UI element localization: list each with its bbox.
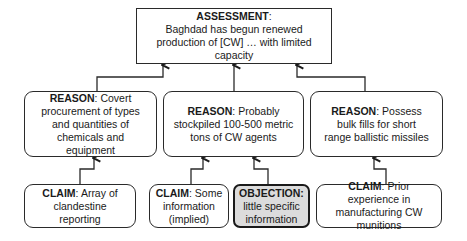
- claim-node-prior-experience: CLAIM: Prior experience in manufacturing…: [316, 184, 442, 228]
- objection-label: OBJECTION:: [239, 187, 304, 199]
- claim-node-some-information: CLAIM: Some information (implied): [149, 184, 229, 228]
- reason-node-stockpile: REASON: Probably stockpiled 100-500 metr…: [163, 91, 304, 157]
- reason-label: REASON: [187, 105, 232, 117]
- objection-node: OBJECTION: little specific information: [233, 184, 310, 228]
- assessment-node: ASSESSMENT: Baghdad has begun renewed pr…: [136, 8, 332, 64]
- objection-text: little specific information: [243, 200, 300, 225]
- claim-node-clandestine: CLAIM: Array of clandestine reporting: [24, 184, 136, 228]
- assessment-text: Baghdad has begun renewed production of …: [156, 23, 311, 61]
- reason-label: REASON: [331, 105, 376, 117]
- assessment-label: ASSESSMENT: [196, 10, 268, 22]
- reason-node-procurement: REASON: Covert procurement of types and …: [24, 91, 157, 157]
- claim-label: CLAIM: [42, 187, 75, 199]
- reason-node-bulk-fills: REASON: Possess bulk fills for short ran…: [310, 91, 443, 157]
- claim-label: CLAIM: [348, 180, 381, 192]
- claim-label: CLAIM: [156, 187, 189, 199]
- reason-label: REASON: [50, 92, 95, 104]
